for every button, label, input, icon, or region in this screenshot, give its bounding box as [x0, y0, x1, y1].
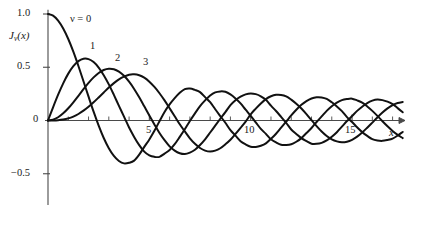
x-axis-label: x	[389, 126, 394, 138]
curve-label-nu-0: ν = 0	[70, 13, 91, 24]
x-tick-label-10: 10	[244, 124, 255, 135]
curve-label-1: 1	[90, 40, 95, 51]
curve-label-2: 2	[115, 52, 120, 63]
plot-background	[0, 0, 428, 248]
y-tick-label-minus0.5: −0.5	[11, 167, 30, 178]
x-tick-label-15: 15	[345, 124, 356, 135]
y-tick-label-1.0: 1.0	[17, 7, 30, 18]
curve-label-3: 3	[143, 56, 148, 67]
x-tick-label-5: 5	[146, 124, 151, 135]
y-axis-label-arg: (x)	[17, 29, 29, 41]
y-tick-label-0.5: 0.5	[17, 60, 30, 71]
bessel-function-plot	[0, 0, 428, 248]
y-axis-label: Jν(x)	[9, 29, 29, 43]
y-tick-label-0: 0	[33, 113, 38, 124]
